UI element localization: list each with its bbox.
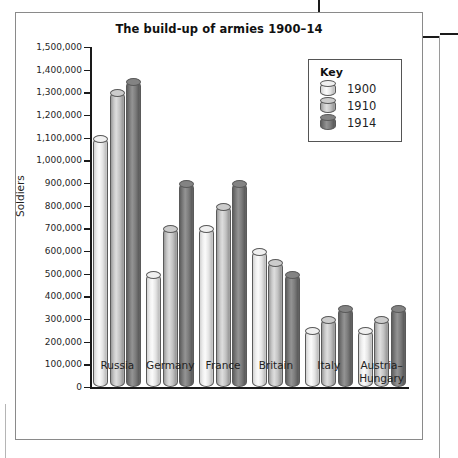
y-tick-mark: [84, 296, 91, 297]
book-page: The build-up of armies 1900–14 Soldiers …: [0, 0, 458, 458]
y-tick-mark: [84, 47, 91, 48]
page-left-edge-line: [5, 404, 6, 458]
bar-cap: [146, 271, 161, 279]
y-tick-mark: [84, 206, 91, 207]
bar-cap: [93, 135, 108, 143]
y-tick-mark: [84, 251, 91, 252]
bar-russia-1914: [126, 81, 141, 387]
bar-germany-1914: [179, 183, 194, 387]
y-tick-label: 0: [20, 382, 82, 392]
y-tick-mark: [84, 342, 91, 343]
bar-cap: [305, 327, 320, 335]
legend-label-1914: 1914: [347, 116, 376, 130]
y-tick-mark: [84, 274, 91, 275]
bar-cap: [374, 316, 389, 324]
y-tick-label: 900,000: [20, 178, 82, 188]
category-label-austria-hungary: Austria– Hungary: [349, 359, 414, 384]
legend-entry-1910: 1910: [320, 99, 401, 113]
y-tick-mark: [84, 183, 91, 184]
page-right-margin: [439, 36, 458, 458]
y-tick-label: 1,300,000: [20, 87, 82, 97]
y-tick-mark: [84, 138, 91, 139]
y-tick-label: 100,000: [20, 359, 82, 369]
y-tick-label: 600,000: [20, 246, 82, 256]
y-tick-label: 1,200,000: [20, 110, 82, 120]
bar-italy-1910: [321, 319, 336, 387]
bar-cap: [179, 180, 194, 188]
y-tick-label: 800,000: [20, 201, 82, 211]
y-tick-mark: [84, 70, 91, 71]
legend-label-1910: 1910: [347, 99, 376, 113]
y-tick-mark: [84, 319, 91, 320]
page-top-rule: [440, 33, 458, 35]
chart-figure: The build-up of armies 1900–14 Soldiers …: [15, 12, 423, 440]
y-tick-label: 700,000: [20, 223, 82, 233]
legend-entries: 190019101914: [309, 82, 401, 130]
legend-swatch-1900: [320, 83, 336, 96]
bar-cap: [285, 271, 300, 279]
bar-cap: [391, 305, 406, 313]
bar-cap: [232, 180, 247, 188]
bar-cap: [216, 203, 231, 211]
y-tick-label: 1,400,000: [20, 65, 82, 75]
y-tick-label: 1,500,000: [20, 42, 82, 52]
bar-cap: [126, 78, 141, 86]
bar-cap: [163, 225, 178, 233]
page-left-margin: [0, 0, 6, 458]
legend-swatch-cap: [320, 80, 336, 87]
bar-russia-1900: [93, 138, 108, 387]
bar-cap: [268, 259, 283, 267]
y-tick-mark: [84, 228, 91, 229]
legend-title: Key: [320, 66, 401, 79]
bar-cap: [252, 248, 267, 256]
legend-swatch-cap: [320, 97, 336, 104]
bar-cap: [110, 89, 125, 97]
legend-swatch-cap: [320, 114, 336, 121]
bar-cap: [199, 225, 214, 233]
y-tick-label: 300,000: [20, 314, 82, 324]
y-tick-label: 400,000: [20, 291, 82, 301]
legend-label-1900: 1900: [347, 82, 376, 96]
bar-russia-1910: [110, 92, 125, 387]
x-axis-line: [90, 387, 409, 389]
y-tick-label: 200,000: [20, 337, 82, 347]
bar-cap: [321, 316, 336, 324]
y-tick-label: 500,000: [20, 269, 82, 279]
bar-france-1914: [232, 183, 247, 387]
y-tick-mark: [84, 160, 91, 161]
bar-cap: [358, 327, 373, 335]
chart-title: The build-up of armies 1900–14: [16, 22, 422, 36]
chart-legend: Key 190019101914: [308, 59, 402, 142]
y-tick-mark: [84, 387, 91, 388]
y-tick-label: 1,000,000: [20, 155, 82, 165]
legend-entry-1900: 1900: [320, 82, 401, 96]
y-tick-mark: [84, 92, 91, 93]
legend-swatch-1910: [320, 100, 336, 113]
legend-entry-1914: 1914: [320, 116, 401, 130]
legend-swatch-1914: [320, 117, 336, 130]
y-tick-label: 1,100,000: [20, 133, 82, 143]
y-tick-mark: [84, 115, 91, 116]
bar-cap: [338, 305, 353, 313]
